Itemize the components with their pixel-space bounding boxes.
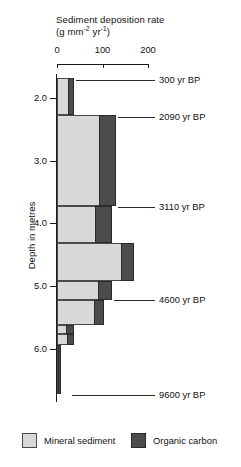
bar-segment-mineral-sediment — [57, 206, 96, 244]
bar-segment-mineral-sediment — [57, 243, 122, 281]
annotation-leader-line — [114, 300, 155, 301]
legend-label-mineral-sediment: Mineral sediment — [44, 435, 115, 446]
legend-swatch-mineral-sediment — [22, 433, 37, 448]
bar-segment-organic-carbon — [121, 243, 135, 281]
sediment-deposition-chart: Sediment deposition rate (g mm-2 yr-1) 0… — [0, 0, 241, 467]
bar-segment-mineral-sediment — [57, 281, 99, 300]
annotation-leader-line — [118, 117, 155, 118]
annotation-date-label: 300 yr BP — [159, 74, 200, 85]
bar-segment-mineral-sediment — [57, 115, 100, 205]
bar-segment-organic-carbon — [94, 300, 104, 325]
annotation-date-label: 2090 yr BP — [159, 111, 205, 122]
bar-segment-organic-carbon — [67, 334, 74, 345]
chart-legend: Mineral sediment Organic carbon — [0, 432, 241, 456]
annotation-date-label: 3110 yr BP — [159, 201, 205, 212]
bar-segment-organic-carbon — [66, 325, 74, 334]
annotation-leader-line — [118, 207, 155, 208]
annotation-date-label: 9600 yr BP — [159, 389, 205, 400]
bar-segment-organic-carbon — [68, 78, 74, 116]
annotation-leader-line — [72, 395, 155, 396]
legend-swatch-organic-carbon — [131, 433, 146, 448]
legend-label-organic-carbon: Organic carbon — [153, 435, 217, 446]
bar-segment-organic-carbon — [98, 281, 113, 300]
bar-segment-organic-carbon — [99, 115, 116, 205]
bar-segment-organic-carbon — [95, 206, 112, 244]
annotation-leader-line — [76, 80, 155, 81]
bar-segment-organic-carbon — [58, 345, 62, 394]
annotation-date-label: 4600 yr BP — [159, 294, 205, 305]
bar-segment-mineral-sediment — [57, 300, 95, 325]
